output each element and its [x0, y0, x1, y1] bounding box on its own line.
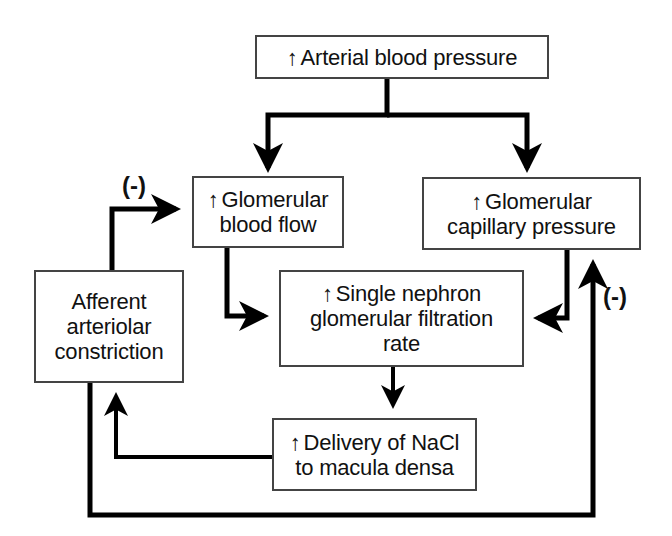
node-label: Single nephron: [336, 281, 481, 306]
negative-feedback-label-right: (-): [603, 285, 627, 309]
increase-arrow-icon: ↑: [322, 281, 333, 306]
node-label: capillary pressure: [447, 214, 616, 239]
increase-arrow-icon: ↑: [287, 45, 298, 70]
arrow-blood-flow-to-sngfr: [227, 247, 264, 316]
node-label: Delivery of NaCl: [304, 430, 460, 455]
arrow-afferent-to-blood-flow-negative: [112, 209, 176, 270]
arrow-bp-to-cap-pressure: [387, 115, 527, 168]
increase-arrow-icon: ↑: [208, 187, 219, 212]
node-glomerular-capillary-pressure: ↑Glomerular capillary pressure: [422, 177, 641, 250]
node-label: glomerular filtration: [310, 306, 493, 331]
node-label: Afferent: [71, 289, 146, 314]
node-label: to macula densa: [295, 455, 453, 480]
node-label: arteriolar: [67, 314, 152, 339]
increase-arrow-icon: ↑: [290, 430, 301, 455]
negative-feedback-label-left: (-): [122, 174, 146, 198]
node-label: blood flow: [219, 212, 316, 237]
increase-arrow-icon: ↑: [471, 189, 482, 214]
node-nacl-delivery-macula-densa: ↑Delivery of NaCl to macula densa: [272, 418, 477, 491]
node-afferent-arteriolar-constriction: Afferent arteriolar constriction: [34, 270, 184, 383]
arrow-nacl-to-afferent: [116, 396, 272, 457]
node-glomerular-blood-flow: ↑Glomerular blood flow: [192, 176, 344, 248]
node-arterial-blood-pressure: ↑Arterial blood pressure: [255, 35, 549, 79]
arrow-cap-pressure-to-sngfr: [538, 249, 567, 318]
node-single-nephron-gfr: ↑Single nephron glomerular filtration ra…: [279, 270, 524, 367]
node-label: Glomerular: [485, 189, 592, 214]
node-label: Arterial blood pressure: [301, 45, 518, 70]
arrow-bp-to-blood-flow: [268, 78, 387, 168]
node-label: Glomerular: [222, 187, 329, 212]
node-label: constriction: [55, 339, 164, 364]
node-label: rate: [383, 331, 420, 356]
